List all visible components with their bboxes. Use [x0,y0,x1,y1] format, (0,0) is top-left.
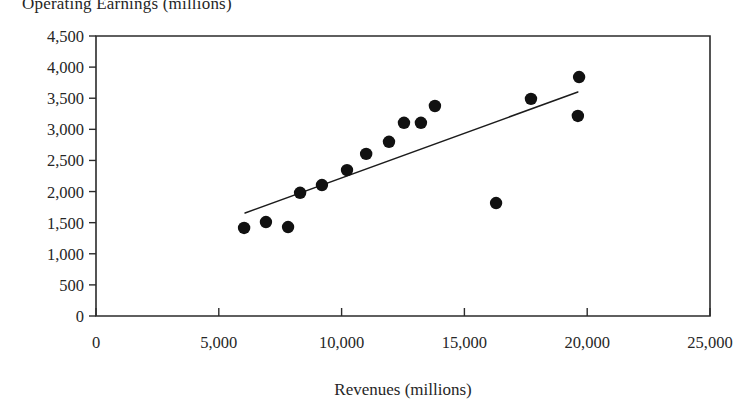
data-point [398,117,410,129]
x-tick-label: 15,000 [442,333,487,352]
data-point [572,110,584,122]
y-tick-label: 4,500 [47,27,84,46]
data-point [260,216,272,228]
data-point [383,136,395,148]
y-tick-label: 2,000 [47,183,84,202]
y-tick-label: 2,500 [47,151,84,170]
scatter-chart-figure: Operating Earnings (millions) 05001,0001… [0,0,750,413]
y-tick-label: 0 [76,307,84,326]
plot-canvas: 05001,0001,5002,0002,5003,0003,5004,0004… [0,0,750,413]
data-point [525,93,537,105]
y-tick-label: 3,500 [47,89,84,108]
y-tick-label: 500 [59,276,84,295]
y-tick-label: 3,000 [47,120,84,139]
x-tick-label: 25,000 [687,333,732,352]
data-point [490,197,502,209]
x-axis-tick-labels: 05,00010,00015,00020,00025,000 [92,333,733,352]
y-tick-label: 1,000 [47,245,84,264]
data-point [238,222,250,234]
y-tick-label: 4,000 [47,58,84,77]
data-point [360,148,372,160]
y-axis-tick-labels: 05001,0001,5002,0002,5003,0003,5004,0004… [47,27,84,326]
x-tick-label: 5,000 [200,333,237,352]
x-axis-title: Revenues (millions) [334,380,471,399]
data-point [316,179,328,191]
y-tick-label: 1,500 [47,214,84,233]
data-point [573,71,585,83]
plot-frame [96,36,710,316]
data-point [294,187,306,199]
y-axis-ticks [89,36,96,316]
data-point [341,164,353,176]
data-point [415,117,427,129]
data-point [429,100,441,112]
x-tick-label: 10,000 [319,333,364,352]
x-tick-label: 20,000 [565,333,610,352]
x-tick-label: 0 [92,333,100,352]
x-axis-ticks [96,308,710,316]
data-point [282,221,294,233]
